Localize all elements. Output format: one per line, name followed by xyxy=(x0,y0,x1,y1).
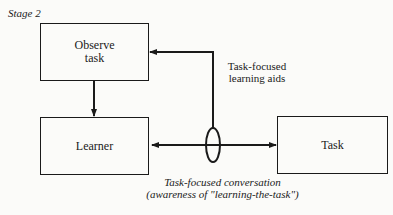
stage-label: Stage 2 xyxy=(8,7,41,19)
learning-aids-label: Task-focused learning aids xyxy=(222,60,292,84)
conversation-label: Task-focused conversation (awareness of … xyxy=(140,176,305,200)
learning-aids-line1: Task-focused xyxy=(222,60,292,72)
learning-aids-arrow xyxy=(150,52,213,128)
conversation-line2: (awareness of "learning-the-task") xyxy=(140,188,305,200)
learning-aids-line2: learning aids xyxy=(222,72,292,84)
node-learner-label: Learner xyxy=(76,140,113,153)
node-learner: Learner xyxy=(40,117,149,175)
node-observe-task: Observe task xyxy=(40,23,149,81)
node-task-label: Task xyxy=(321,139,344,152)
node-observe-task-line2: task xyxy=(75,52,115,65)
node-task: Task xyxy=(277,116,388,174)
conversation-line1: Task-focused conversation xyxy=(140,176,305,188)
